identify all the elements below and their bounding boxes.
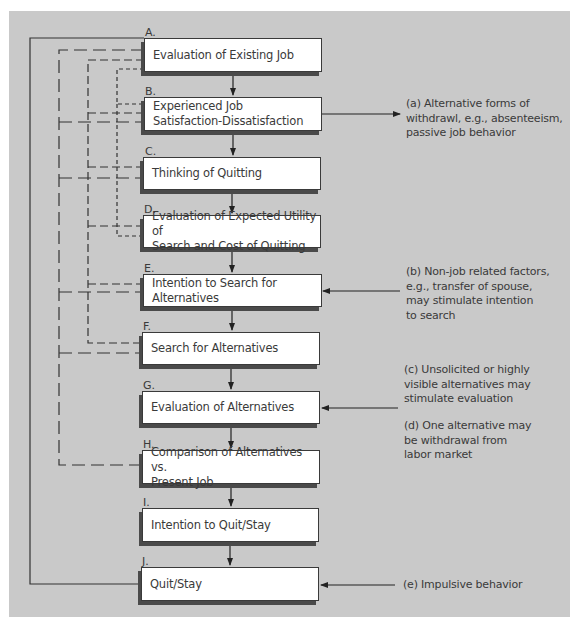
step-box-h: Comparison of Alternatives vs. Present J… [142,450,320,484]
step-box-b: Experienced Job Satisfaction-Dissatisfac… [144,97,322,131]
step-letter-j: J. [142,556,149,567]
medium-dash-lines [88,60,144,343]
step-label-a: Evaluation of Existing Job [153,48,294,63]
step-box-a: Evaluation of Existing Job [144,38,322,72]
step-label-h: Comparison of Alternatives vs. Present J… [151,445,319,490]
step-box-g: Evaluation of Alternatives [142,391,320,424]
step-letter-a: A. [145,27,156,38]
step-label-e: Intention to Search for Alternatives [152,276,321,306]
step-letter-g: G. [143,380,155,391]
feedback-line-j-to-a [30,38,144,584]
step-letter-i: I. [143,497,150,508]
step-label-b: Experienced Job Satisfaction-Dissatisfac… [153,99,303,129]
step-label-j: Quit/Stay [150,577,202,592]
step-letter-f: F. [143,321,151,332]
step-letter-c: C. [145,146,156,157]
note-c: (c) Unsolicited or highly visible altern… [404,363,531,407]
long-dash-lines [59,50,144,465]
step-letter-b: B. [145,86,156,97]
step-label-f: Search for Alternatives [151,341,278,356]
step-box-c: Thinking of Quitting [143,157,321,190]
note-e: (e) Impulsive behavior [403,578,522,593]
short-dash-lines [117,69,144,236]
step-box-f: Search for Alternatives [142,332,320,365]
note-d: (d) One alternative may be withdrawal fr… [404,419,531,463]
step-box-j: Quit/Stay [141,567,319,601]
step-box-d: Evaluation of Expected Utility of Search… [143,215,321,248]
step-letter-e: E. [144,263,154,274]
step-label-c: Thinking of Quitting [152,166,262,181]
step-box-i: Intention to Quit/Stay [142,508,319,542]
note-a: (a) Alternative forms of withdrawl, e.g.… [406,97,563,141]
step-label-i: Intention to Quit/Stay [151,518,271,533]
note-b: (b) Non-job related factors, e.g., trans… [406,265,550,323]
step-label-g: Evaluation of Alternatives [151,400,294,415]
step-label-d: Evaluation of Expected Utility of Search… [152,209,320,254]
step-box-e: Intention to Search for Alternatives [143,274,322,307]
